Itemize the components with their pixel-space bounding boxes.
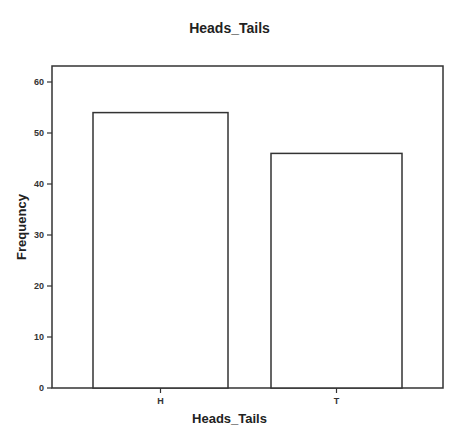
y-tick-label: 20 bbox=[34, 281, 44, 291]
x-tick-label: H bbox=[157, 396, 164, 406]
y-tick-label: 30 bbox=[34, 230, 44, 240]
y-tick-label: 40 bbox=[34, 179, 44, 189]
y-axis-label: Frequency bbox=[14, 193, 29, 260]
y-tick-label: 0 bbox=[39, 383, 44, 393]
y-tick-label: 50 bbox=[34, 128, 44, 138]
bar-h bbox=[93, 113, 228, 388]
y-tick-label: 10 bbox=[34, 332, 44, 342]
y-tick-label: 60 bbox=[34, 77, 44, 87]
bar-t bbox=[271, 153, 402, 388]
x-axis-label: Heads_Tails bbox=[192, 411, 267, 426]
x-tick-label: T bbox=[334, 396, 340, 406]
bar-chart: 0102030405060HTHeads_TailsFrequency bbox=[0, 0, 459, 439]
